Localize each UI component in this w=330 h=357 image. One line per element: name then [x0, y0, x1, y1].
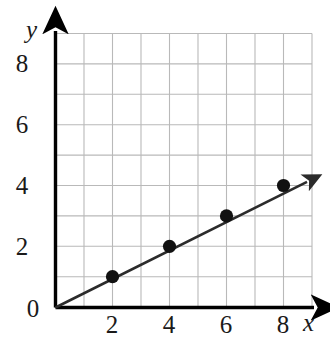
graph-canvas	[0, 0, 330, 357]
y-axis-label: y	[26, 17, 37, 42]
x-tick-label-8: 8	[272, 312, 294, 337]
grid-vertical-lines	[56, 34, 313, 308]
coordinate-plane-figure: y x 8 6 4 2 0 2 4 6 8	[0, 0, 330, 357]
y-tick-label-2: 2	[11, 234, 33, 259]
x-axis-label: x	[303, 310, 314, 335]
data-point	[106, 270, 119, 283]
x-tick-label-2: 2	[101, 312, 123, 337]
x-tick-label-4: 4	[158, 312, 180, 337]
y-tick-label-8: 8	[11, 51, 33, 76]
x-tick-label-6: 6	[215, 312, 237, 337]
data-point	[277, 179, 290, 192]
axis-lines	[56, 31, 315, 308]
grid-horizontal-lines	[56, 34, 313, 308]
origin-label: 0	[22, 296, 44, 321]
data-point	[163, 240, 176, 253]
y-tick-label-4: 4	[11, 173, 33, 198]
data-point	[220, 209, 233, 222]
y-tick-label-6: 6	[11, 112, 33, 137]
data-line	[56, 182, 308, 308]
